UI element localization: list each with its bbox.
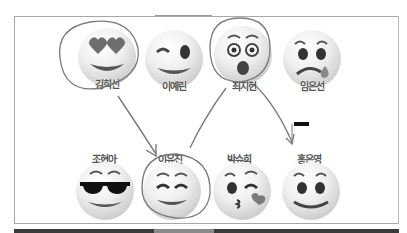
name-label: 임은선 <box>282 78 342 93</box>
smiling-eyes-icon <box>143 162 201 220</box>
emoji-surprised <box>214 26 272 84</box>
emoji-slight-smile <box>282 162 340 220</box>
slide-canvas[interactable] <box>14 16 399 224</box>
name-label: 최지현 <box>214 78 274 93</box>
emoji-smiling-eyes <box>143 162 201 220</box>
bottom-toolbar <box>14 229 399 233</box>
surprised-icon <box>214 26 272 84</box>
kissing-heart-icon <box>213 162 271 220</box>
name-label: 이예린 <box>144 78 204 93</box>
name-label: 김희선 <box>77 76 137 91</box>
ink-tag <box>294 122 309 126</box>
emoji-sunglasses <box>76 162 134 220</box>
slight-smile-icon <box>282 162 340 220</box>
emoji-kissing-heart <box>213 162 271 220</box>
sunglasses-icon <box>76 162 134 220</box>
